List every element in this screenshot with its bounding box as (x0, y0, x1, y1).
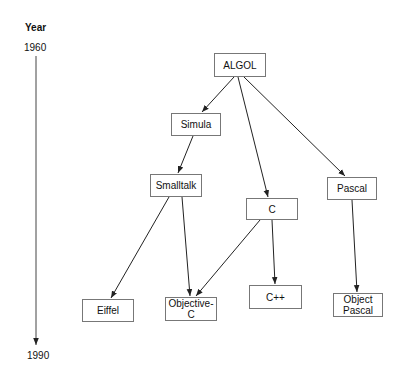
node-object-pascal: Object Pascal (333, 293, 383, 317)
node-c: C (246, 198, 298, 220)
node-eiffel: Eiffel (82, 299, 134, 322)
node-simula: Simula (171, 113, 221, 136)
timeline-start-label: 1960 (24, 42, 46, 53)
edge-arrow (178, 136, 193, 173)
edge-arrow (238, 77, 268, 197)
edge-arrow (111, 197, 169, 298)
edge-arrow (202, 77, 234, 112)
edge-arrow (352, 200, 357, 292)
edge-arrow (182, 197, 190, 296)
edge-arrow (272, 220, 275, 284)
node-objective-c: Objective-C (165, 297, 217, 321)
node-smalltalk: Smalltalk (150, 174, 202, 197)
node-pascal: Pascal (327, 177, 377, 200)
timeline-heading: Year (25, 22, 46, 33)
timeline-end-label: 1990 (27, 350, 49, 361)
node-algol: ALGOL (214, 53, 266, 77)
node-cpp: C++ (249, 285, 302, 309)
edges-group (111, 77, 357, 298)
